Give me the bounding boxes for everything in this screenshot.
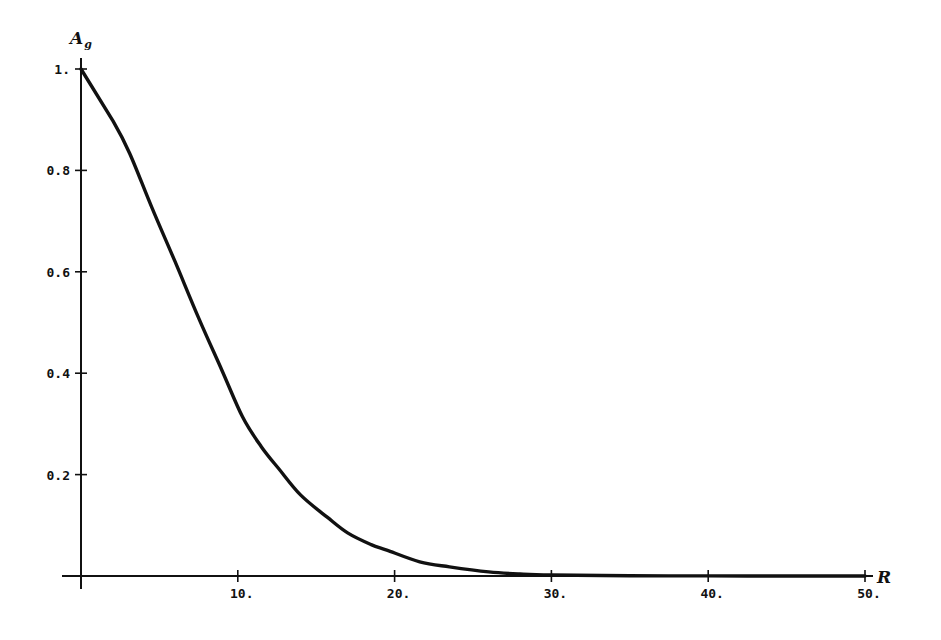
tick-marks <box>75 69 865 582</box>
data-series <box>81 69 865 576</box>
y-tick-label: 0.6 <box>47 265 71 280</box>
x-axis-title: R <box>876 567 891 587</box>
x-tick-label: 50. <box>857 586 880 601</box>
y-axis-title: Ag <box>68 28 92 51</box>
y-tick-label: 0.2 <box>47 468 70 483</box>
x-tick-label: 10. <box>230 586 253 601</box>
tick-labels: 10.20.30.40.50.0.20.40.60.81. <box>47 62 881 601</box>
x-tick-label: 30. <box>544 586 567 601</box>
y-tick-label: 0.8 <box>47 163 71 178</box>
line-chart: 10.20.30.40.50.0.20.40.60.81. Ag R <box>0 0 941 640</box>
y-tick-label: 1. <box>54 62 70 77</box>
y-tick-label: 0.4 <box>47 366 71 381</box>
series-line-a-g <box>81 69 865 576</box>
axes <box>62 58 873 589</box>
x-tick-label: 40. <box>700 586 723 601</box>
x-tick-label: 20. <box>387 586 410 601</box>
